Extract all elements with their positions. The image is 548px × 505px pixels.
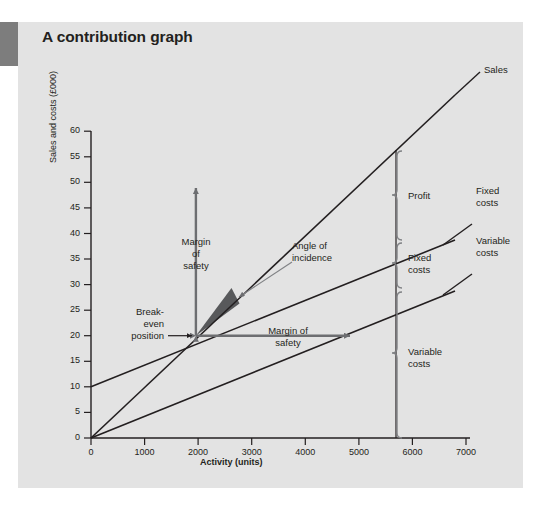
variable-costs-bracket: [392, 292, 402, 438]
series-label-sales: Sales: [484, 64, 508, 76]
x-axis-title: Activity (units): [200, 457, 263, 467]
contribution-graph-svg: [0, 0, 548, 505]
x-axis-ticks: [91, 438, 466, 445]
angle-of-incidence-pointer: [239, 262, 292, 297]
bracket-label-variable-costs-2: costs: [408, 358, 430, 370]
variable-costs-label-leader: [443, 274, 472, 295]
break-even-label-1: Break-: [98, 306, 164, 318]
y-tick-10: 10: [58, 381, 80, 391]
x-tick-7000: 7000: [446, 447, 486, 457]
axes: [91, 131, 470, 438]
x-tick-1000: 1000: [125, 447, 165, 457]
bracket-label-fixed-costs-1: Fixed: [408, 252, 431, 264]
angle-of-incidence-label-2: incidence: [292, 252, 332, 264]
profit-bracket: [392, 151, 402, 240]
series-label-variable-costs-2: costs: [476, 247, 498, 259]
x-tick-2000: 2000: [178, 447, 218, 457]
y-tick-55: 55: [58, 151, 80, 161]
y-tick-60: 60: [58, 125, 80, 135]
y-tick-30: 30: [58, 279, 80, 289]
bracket-label-fixed-costs-2: costs: [408, 264, 430, 276]
angle-of-incidence-label-1: Angle of: [292, 240, 327, 252]
angle-of-incidence-wedge: [196, 288, 240, 336]
series-label-variable-costs-1: Variable: [476, 235, 510, 247]
y-tick-50: 50: [58, 176, 80, 186]
break-even-label-3: position: [98, 330, 164, 342]
sales-label-leader: [455, 72, 480, 95]
margin-of-safety-vertical-label-3: safety: [166, 260, 226, 272]
y-tick-20: 20: [58, 330, 80, 340]
x-tick-0: 0: [71, 447, 111, 457]
y-axis-ticks: [84, 131, 91, 438]
bracket-label-profit: Profit: [408, 190, 430, 202]
series-label-fixed-costs-2: costs: [476, 197, 498, 209]
bracket-label-variable-costs-1: Variable: [408, 346, 442, 358]
x-tick-3000: 3000: [232, 447, 272, 457]
series-label-fixed-costs-1: Fixed: [476, 185, 499, 197]
y-tick-15: 15: [58, 355, 80, 365]
margin-of-safety-horizontal-label-2: safety: [252, 337, 324, 349]
x-tick-5000: 5000: [339, 447, 379, 457]
y-tick-45: 45: [58, 202, 80, 212]
margin-of-safety-vertical-label-2: of: [166, 248, 226, 260]
y-axis-title: Sales and costs (£000): [48, 37, 58, 197]
x-tick-6000: 6000: [392, 447, 432, 457]
sales-line: [91, 95, 455, 438]
x-tick-4000: 4000: [285, 447, 325, 457]
margin-of-safety-vertical-label-1: Margin: [166, 236, 226, 248]
y-tick-40: 40: [58, 228, 80, 238]
y-tick-35: 35: [58, 253, 80, 263]
fixed-costs-label-leader: [443, 224, 472, 245]
y-tick-0: 0: [58, 432, 80, 442]
break-even-label-2: even: [98, 318, 164, 330]
y-tick-5: 5: [58, 406, 80, 416]
y-tick-25: 25: [58, 304, 80, 314]
margin-of-safety-horizontal-label-1: Margin of: [252, 325, 324, 337]
